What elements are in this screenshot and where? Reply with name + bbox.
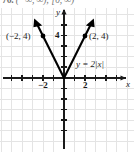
point-marker-right bbox=[83, 34, 88, 39]
answer-key-line: 76. (−∞, ∞); [0, ∞) bbox=[2, 0, 134, 6]
graph-plot: (−2, 4) (2, 4) 4 −2 2 x y y = 2|x| bbox=[0, 8, 134, 152]
equation-label: y = 2|x| bbox=[76, 60, 104, 69]
question-number: 76. bbox=[2, 0, 14, 5]
graph-svg bbox=[0, 8, 134, 152]
x-axis-label: x bbox=[126, 80, 130, 89]
point-marker-left bbox=[41, 34, 46, 39]
x-tick-label-minus-2: −2 bbox=[38, 81, 48, 90]
y-tick-label-4: 4 bbox=[55, 31, 60, 40]
answer-text: (−∞, ∞); [0, ∞) bbox=[16, 0, 74, 5]
y-axis-label: y bbox=[56, 8, 60, 17]
y-axis-arrowhead bbox=[61, 9, 66, 15]
curve-left-arrowhead bbox=[33, 18, 42, 27]
figure-container: 76. (−∞, ∞); [0, ∞) bbox=[0, 0, 134, 152]
x-tick-label-2: 2 bbox=[83, 81, 88, 90]
point-label-left: (−2, 4) bbox=[6, 32, 31, 41]
curve-right-arrowhead bbox=[86, 18, 95, 27]
point-label-right: (2, 4) bbox=[89, 32, 109, 41]
